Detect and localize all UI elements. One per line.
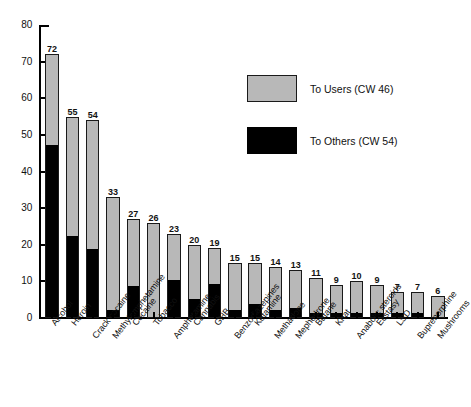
y-axis-tick-label: 20 (0, 240, 32, 250)
y-axis-tick-label: 30 (0, 203, 32, 213)
bar-value-label: 6 (435, 287, 440, 296)
bar-value-label: 20 (189, 236, 199, 245)
bar-value-label: 72 (47, 45, 57, 54)
bar-stack[interactable]: 55 (66, 117, 79, 318)
bar-value-label: 10 (352, 272, 362, 281)
bar-value-label: 27 (128, 210, 138, 219)
bar-value-label: 7 (415, 283, 420, 292)
legend-label-to-others: To Others (CW 54) (310, 135, 398, 147)
y-axis-tick-label: 60 (0, 93, 32, 103)
y-axis-tick-label: 70 (0, 57, 32, 67)
x-axis-tick-mark (92, 312, 94, 319)
legend-item-to-others: To Others (CW 54) (247, 127, 447, 154)
bar-stack[interactable]: 72 (45, 54, 58, 318)
bar-value-label: 23 (169, 225, 179, 234)
bar-value-label: 13 (291, 261, 301, 270)
bar-value-label: 9 (374, 276, 379, 285)
y-axis-tick-label: 0 (0, 313, 32, 323)
bar-group: 33 (106, 25, 119, 318)
bar-group: 15 (228, 25, 241, 318)
bar-segment-to-others (46, 145, 57, 317)
bar-value-label: 15 (250, 254, 260, 263)
x-axis-tick-mark (295, 312, 297, 319)
bar-group: 23 (167, 25, 180, 318)
y-axis-tick-label: 10 (0, 276, 32, 286)
bar-group: 27 (127, 25, 140, 318)
y-axis-tick-label: 80 (0, 20, 32, 30)
bar-value-label: 9 (334, 276, 339, 285)
legend-swatch-to-others-icon (247, 127, 297, 154)
bar-value-label: 26 (149, 214, 159, 223)
bar-value-label: 19 (210, 239, 220, 248)
bar-value-label: 11 (311, 269, 321, 278)
chart-legend: To Users (CW 46) To Others (CW 54) (247, 75, 447, 179)
bar-value-label: 33 (108, 188, 118, 197)
x-axis-tick-mark (274, 312, 276, 319)
legend-swatch-to-users-icon (247, 75, 297, 102)
x-axis-tick-mark (112, 312, 114, 319)
bar-stack[interactable]: 54 (86, 120, 99, 318)
bar-group: 20 (188, 25, 201, 318)
bar-group: 54 (86, 25, 99, 318)
x-axis-tick-mark (417, 312, 419, 319)
x-axis-tick-mark (356, 312, 358, 319)
bar-group: 19 (208, 25, 221, 318)
x-axis-tick-mark (437, 312, 439, 319)
legend-item-to-users: To Users (CW 46) (247, 75, 447, 102)
bar-group: 55 (66, 25, 79, 318)
y-axis-tick-label: 50 (0, 130, 32, 140)
x-axis-tick-mark (173, 312, 175, 319)
bar-value-label: 55 (67, 108, 77, 117)
bar-group: 72 (45, 25, 58, 318)
x-axis-tick-mark (234, 312, 236, 319)
bar-value-label: 15 (230, 254, 240, 263)
bar-stack[interactable]: 15 (228, 263, 241, 318)
y-axis-tick-label: 40 (0, 167, 32, 177)
bar-value-label: 14 (270, 258, 280, 267)
legend-label-to-users: To Users (CW 46) (310, 83, 393, 95)
bar-value-label: 54 (88, 111, 98, 120)
